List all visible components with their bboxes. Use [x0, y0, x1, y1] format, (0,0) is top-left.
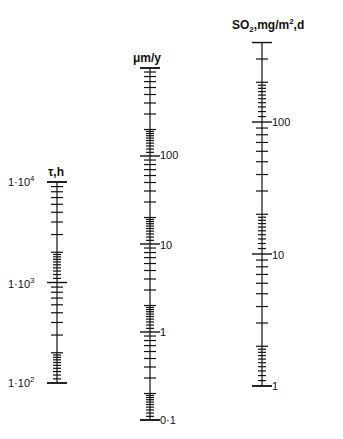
so2-label-1: 1 — [272, 380, 278, 392]
tau-label-1e2: 1·102 — [8, 375, 35, 389]
corrosion-label-10: 10 — [160, 239, 172, 251]
nomogram-svg: τ,h 1·104 1·103 1·102 μm/y 100 10 1 0·1 … — [0, 0, 343, 439]
corrosion-rate-axis — [140, 68, 160, 420]
so2-label-10: 10 — [272, 249, 284, 261]
tau-axis — [47, 182, 67, 383]
so2-axis-title: SO2,mg/m2,d — [232, 17, 304, 34]
tau-label-1e3: 1·103 — [8, 276, 35, 290]
nomogram: τ,h 1·104 1·103 1·102 μm/y 100 10 1 0·1 … — [0, 0, 343, 439]
corrosion-label-100: 100 — [160, 149, 178, 161]
so2-deposition-axis — [252, 43, 272, 386]
corrosion-axis-title: μm/y — [133, 51, 161, 65]
tau-axis-title: τ,h — [48, 165, 64, 179]
tau-label-1e4: 1·104 — [8, 174, 35, 188]
corrosion-label-1: 1 — [160, 326, 166, 338]
corrosion-label-0-1: 0·1 — [160, 414, 176, 426]
so2-label-100: 100 — [272, 116, 290, 128]
